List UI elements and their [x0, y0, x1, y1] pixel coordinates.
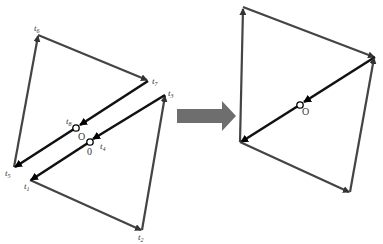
label-origin-upper: O — [78, 131, 85, 142]
label-origin-lower: 0 — [87, 146, 92, 157]
label-t2: t2 — [138, 232, 144, 243]
diagram-canvas: t6 t7 t3 t8 t4 t5 t1 t2 O 0 O — [0, 0, 383, 244]
label-origin: O — [302, 106, 309, 117]
diagonal-right-center — [304, 57, 375, 102]
label-t8: t8 — [66, 116, 72, 127]
label-t7: t7 — [152, 76, 159, 87]
edge-t2-t3 — [142, 96, 165, 230]
edge-bottom-right — [350, 58, 374, 192]
label-t6: t6 — [34, 23, 40, 34]
origin-point-lower — [87, 139, 93, 145]
edge-left-top — [240, 9, 243, 142]
label-t3: t3 — [168, 88, 174, 99]
left-figure: t6 t7 t3 t8 t4 t5 t1 t2 O 0 — [5, 23, 174, 243]
edge-t3-t4 — [93, 95, 165, 139]
label-t5: t5 — [5, 168, 11, 179]
edge-t8-t5 — [15, 129, 74, 167]
right-figure: O — [240, 7, 375, 192]
edge-t1-t2 — [30, 180, 141, 230]
label-t4: t4 — [100, 141, 106, 152]
edge-t4-t1 — [31, 143, 88, 180]
edge-top-right — [243, 7, 374, 57]
edge-left-bottom — [240, 142, 349, 192]
transform-arrow-icon — [177, 101, 236, 131]
edge-t7-t8 — [80, 81, 148, 125]
edge-t5-t6 — [14, 36, 38, 167]
label-t1: t1 — [24, 181, 30, 192]
diagonal-center-left — [241, 106, 298, 142]
edge-t6-t7 — [38, 35, 147, 80]
